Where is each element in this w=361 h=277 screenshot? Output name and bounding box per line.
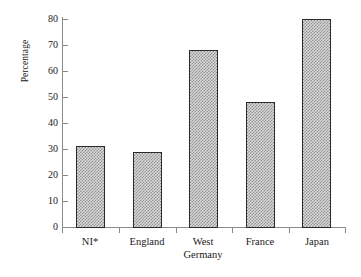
bar-west-germany <box>189 50 218 228</box>
y-tick-mark <box>62 201 68 202</box>
y-tick-label: 0 <box>18 222 58 232</box>
y-tick-label: 60 <box>18 66 58 76</box>
y-tick-mark <box>62 19 68 20</box>
y-tick-label: 50 <box>18 92 58 102</box>
x-tick-mark <box>176 228 177 233</box>
y-tick-label: 80 <box>18 14 58 24</box>
y-tick-label: 70 <box>18 40 58 50</box>
category-line: Germany <box>148 249 258 262</box>
bar-england <box>133 152 162 228</box>
x-tick-mark <box>62 228 63 233</box>
y-tick-mark <box>62 149 68 150</box>
bar-japan <box>302 19 331 228</box>
x-tick-mark <box>232 228 233 233</box>
y-tick-mark <box>62 45 68 46</box>
y-tick-label: 40 <box>18 118 58 128</box>
y-tick-label: 20 <box>18 170 58 180</box>
bar-ni <box>76 146 105 228</box>
x-tick-mark <box>119 228 120 233</box>
y-tick-mark <box>62 71 68 72</box>
y-tick-mark <box>62 123 68 124</box>
y-tick-label: 30 <box>18 144 58 154</box>
y-tick-mark <box>62 97 68 98</box>
bar-france <box>246 102 275 228</box>
x-tick-mark <box>289 228 290 233</box>
y-tick-label: 10 <box>18 196 58 206</box>
category-line: Japan <box>262 236 361 249</box>
x-axis-category-label-japan: Japan <box>262 236 361 249</box>
y-tick-mark <box>62 175 68 176</box>
x-tick-mark <box>345 228 346 233</box>
bar-chart: Percentage 80 70 60 50 40 30 20 10 0 NI*… <box>0 0 361 277</box>
